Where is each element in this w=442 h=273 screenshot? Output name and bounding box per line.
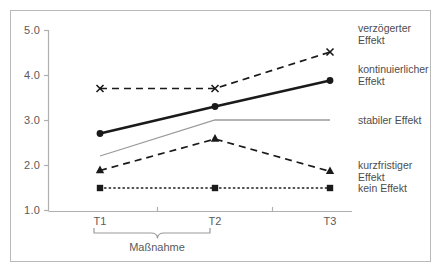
legend-line-1: kontinuierlicher bbox=[358, 63, 429, 75]
legend-label-stabiler-effekt: stabiler Effekt bbox=[358, 114, 421, 126]
series-line-verzoegerter-effekt bbox=[100, 52, 330, 89]
series-verzoegerter-effekt bbox=[97, 49, 334, 93]
legend-line-2: Effekt bbox=[358, 75, 385, 87]
x-tick-label-t1: T1 bbox=[85, 215, 115, 227]
x-tick-label-t3: T3 bbox=[315, 215, 345, 227]
legend-label-kontinuierlicher-effekt: kontinuierlicher Effekt bbox=[358, 63, 429, 87]
series-kurzfristiger-effekt bbox=[96, 134, 334, 174]
series-kein-effekt bbox=[97, 185, 333, 191]
legend-label-kurzfristiger-effekt: kurzfristiger Effekt bbox=[358, 159, 412, 183]
legend-label-kein-effekt: kein Effekt bbox=[358, 182, 407, 194]
y-tick-label-5: 5.0 bbox=[14, 24, 40, 36]
massnahme-brace-label: Maßnahme bbox=[112, 241, 202, 253]
legend-line-1: verzögerter bbox=[358, 22, 411, 34]
massnahme-brace-icon bbox=[94, 228, 210, 238]
series-line-kurzfristiger-effekt bbox=[100, 139, 330, 171]
marker-circle-kontinuierlicher-effekt-t1 bbox=[97, 130, 104, 137]
marker-circle-kontinuierlicher-effekt-t3 bbox=[327, 77, 334, 84]
legend-line-1: kurzfristiger bbox=[358, 159, 412, 171]
marker-triangle-kurzfristiger-effekt-t2 bbox=[211, 134, 219, 142]
chart-figure: 5.0 4.0 3.0 2.0 1.0 T1 T2 T3 Maßnahme ve… bbox=[0, 0, 442, 273]
marker-triangle-kurzfristiger-effekt-t3 bbox=[326, 167, 334, 175]
x-tick-label-t2: T2 bbox=[200, 215, 230, 227]
axes-group bbox=[44, 30, 352, 212]
marker-circle-kontinuierlicher-effekt-t2 bbox=[212, 103, 219, 110]
y-tick-label-4: 4.0 bbox=[14, 69, 40, 81]
marker-square-kein-effekt-t3 bbox=[327, 185, 333, 191]
series-kontinuierlicher-effekt bbox=[97, 77, 334, 137]
legend-label-verzoegerter-effekt: verzögerter Effekt bbox=[358, 22, 411, 46]
y-tick-label-2: 2.0 bbox=[14, 159, 40, 171]
y-tick-label-1: 1.0 bbox=[14, 204, 40, 216]
y-tick-label-3: 3.0 bbox=[14, 114, 40, 126]
marker-square-kein-effekt-t1 bbox=[97, 185, 103, 191]
marker-square-kein-effekt-t2 bbox=[212, 185, 218, 191]
legend-line-2: Effekt bbox=[358, 34, 385, 46]
